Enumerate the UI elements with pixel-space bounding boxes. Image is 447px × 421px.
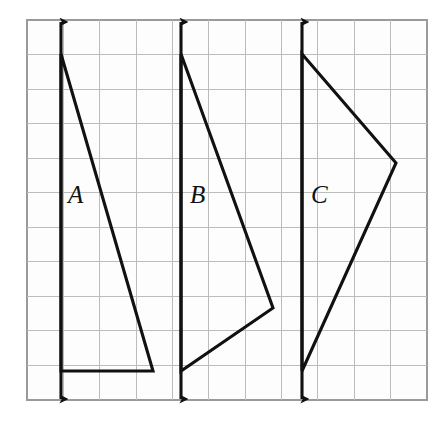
figure-canvas: ABC (0, 0, 447, 421)
shape-label-c: C (311, 181, 328, 208)
grid-background (27, 20, 427, 400)
shape-label-b: B (190, 181, 205, 208)
grid-border (27, 20, 427, 400)
shape-label-a: A (66, 181, 84, 208)
geometry-figure: ABC (0, 0, 447, 421)
